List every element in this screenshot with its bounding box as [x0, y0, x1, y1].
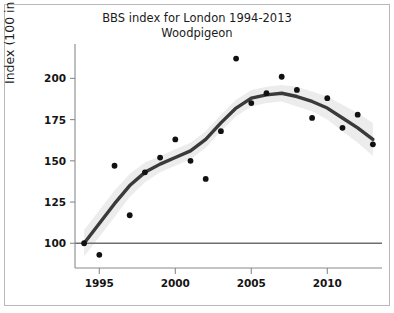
data-point	[142, 169, 148, 175]
chart-figure: BBS index for London 1994-2013 Woodpigeo…	[0, 0, 394, 313]
data-point	[96, 252, 102, 258]
y-tick-label: 125	[44, 196, 66, 208]
data-point	[218, 128, 224, 134]
axis-group	[70, 44, 382, 274]
data-point	[233, 56, 239, 62]
plot-area: 1001251501752001995200020052010	[0, 0, 394, 313]
x-tick-label: 1995	[85, 277, 114, 289]
x-tick-label: 2000	[161, 277, 190, 289]
data-point	[157, 155, 163, 161]
y-tick-label: 150	[44, 155, 66, 167]
data-point	[248, 100, 254, 106]
data-point	[188, 158, 194, 164]
y-tick-label: 175	[44, 114, 66, 126]
y-tick-label: 100	[44, 237, 66, 249]
data-point	[309, 115, 315, 121]
data-point	[81, 240, 87, 246]
x-tick-label: 2005	[237, 277, 266, 289]
data-point	[370, 141, 376, 147]
data-point	[112, 163, 118, 169]
data-point	[294, 87, 300, 93]
data-point	[340, 125, 346, 131]
data-points-group	[81, 56, 376, 258]
data-point	[355, 112, 361, 118]
data-point	[172, 136, 178, 142]
x-tick-label: 2010	[313, 277, 342, 289]
data-point	[324, 95, 330, 101]
data-point	[127, 212, 133, 218]
data-point	[203, 176, 209, 182]
data-point	[279, 74, 285, 80]
data-point	[264, 90, 270, 96]
y-tick-label: 200	[44, 72, 66, 84]
